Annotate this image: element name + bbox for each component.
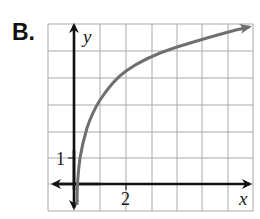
- x-tick-label: 2: [121, 189, 130, 209]
- function-curve: [77, 27, 249, 205]
- y-tick-label: 1: [56, 149, 65, 169]
- graph: y x 1 2: [0, 0, 260, 219]
- x-axis-label: x: [238, 188, 248, 209]
- y-axis-label: y: [81, 26, 92, 47]
